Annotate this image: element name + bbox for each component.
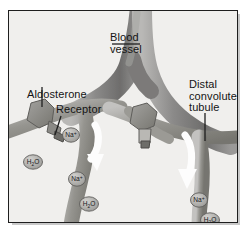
water-molecule: H2O <box>80 197 99 211</box>
sodium-molecule: Na+ <box>69 172 86 186</box>
label-receptor: Receptor <box>56 104 101 116</box>
label-aldosterone: Aldosterone <box>27 89 87 101</box>
water-molecule: H2O <box>24 155 43 169</box>
figure-container: Na+H2ONa+H2ONa+H2O Blood vessel Aldoster… <box>0 0 249 235</box>
label-blood-vessel: Blood vessel <box>110 32 142 55</box>
diagram-frame: Na+H2ONa+H2ONa+H2O Blood vessel Aldoster… <box>8 10 238 223</box>
sodium-molecule: Na+ <box>191 193 208 207</box>
label-distal-convoluted-tubule: Distal convoluted tubule <box>189 79 238 114</box>
aldosterone-receptor-center <box>130 103 157 148</box>
sodium-molecule: Na+ <box>63 128 80 142</box>
